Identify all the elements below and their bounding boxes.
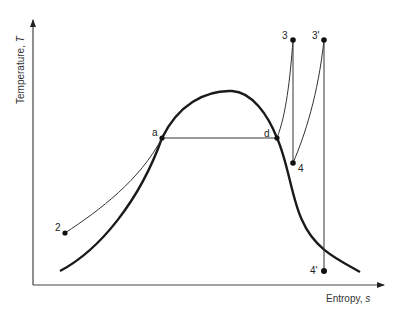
label-a: a [152,127,158,138]
point-a [159,135,164,140]
x-axis-label: Entropy, s [326,293,370,304]
line-4-3p [293,40,324,163]
point-4 [290,160,296,166]
point-3 [290,37,296,43]
line-d-3 [277,40,293,138]
line-2-a [65,138,162,233]
ts-diagram: Temperature, T Entropy, s a d 3 3' 4 4' … [0,0,398,315]
point-4p [321,268,327,274]
point-2 [62,230,67,235]
label-4: 4 [298,163,304,174]
point-d [274,135,279,140]
point-3p [321,37,327,43]
y-axis-label: Temperature, T [15,35,26,104]
saturation-dome [60,91,360,272]
label-2: 2 [55,222,61,233]
label-3p: 3' [312,30,320,41]
label-3: 3 [282,30,288,41]
label-d: d [264,128,270,139]
label-4p: 4' [310,265,318,276]
